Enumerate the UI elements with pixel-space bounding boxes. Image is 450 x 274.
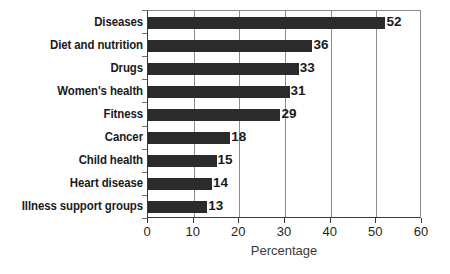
category-label: Child health — [13, 154, 143, 166]
category-label: Illness support groups — [13, 200, 143, 212]
bar — [148, 155, 217, 167]
category-label: Cancer — [13, 131, 143, 143]
x-axis-tick-label-0: 0 — [127, 224, 167, 239]
bar-value-label: 33 — [300, 62, 315, 74]
x-axis-tick-60 — [421, 218, 422, 223]
category-label: Heart disease — [13, 177, 143, 189]
bar-value-label: 29 — [281, 108, 296, 120]
x-axis-tick-label-20: 20 — [218, 224, 258, 239]
category-label-row: Heart disease — [0, 177, 143, 189]
bar-value-label: 52 — [386, 16, 401, 28]
bar — [148, 86, 290, 98]
category-label-row: Cancer — [0, 131, 143, 143]
bar-chart: DiseasesDiet and nutritionDrugsWomen's h… — [0, 0, 450, 274]
bar-value-label: 31 — [291, 85, 306, 97]
category-label: Fitness — [13, 108, 143, 120]
bar — [148, 17, 385, 29]
bar-value-label: 15 — [218, 154, 233, 166]
x-axis-title: Percentage — [147, 243, 421, 258]
x-axis-tick-40 — [330, 218, 331, 223]
y-axis-tick — [142, 56, 147, 57]
bar — [148, 178, 212, 190]
x-axis-tick-label-40: 40 — [310, 224, 350, 239]
category-label-row: Fitness — [0, 108, 143, 120]
category-label-row: Diseases — [0, 16, 143, 28]
gridline-40 — [331, 11, 332, 217]
x-axis-tick-label-30: 30 — [264, 224, 304, 239]
y-axis-tick — [142, 195, 147, 196]
category-label: Women's health — [13, 85, 143, 97]
x-axis-tick-label-60: 60 — [401, 224, 441, 239]
y-axis-tick — [142, 79, 147, 80]
y-axis-tick — [142, 102, 147, 103]
x-axis-tick-10 — [193, 218, 194, 223]
category-label-row: Women's health — [0, 85, 143, 97]
gridline-50 — [376, 11, 377, 217]
x-axis-tick-30 — [284, 218, 285, 223]
category-label: Drugs — [13, 62, 143, 74]
x-axis-tick-50 — [375, 218, 376, 223]
x-axis-tick-0 — [147, 218, 148, 223]
y-axis-tick — [142, 126, 147, 127]
category-label-row: Illness support groups — [0, 200, 143, 212]
bar-value-label: 36 — [313, 39, 328, 51]
bar-value-label: 18 — [231, 131, 246, 143]
bar-value-label: 14 — [213, 177, 228, 189]
category-label-row: Diet and nutrition — [0, 39, 143, 51]
y-axis-tick — [142, 172, 147, 173]
bar-value-label: 13 — [208, 200, 223, 212]
y-axis-tick — [142, 33, 147, 34]
y-axis-tick — [142, 149, 147, 150]
bar — [148, 63, 299, 75]
x-axis-tick-20 — [238, 218, 239, 223]
category-label-row: Drugs — [0, 62, 143, 74]
bar — [148, 40, 312, 52]
x-axis-tick-label-50: 50 — [355, 224, 395, 239]
bar — [148, 201, 207, 213]
y-axis-tick — [142, 10, 147, 11]
x-axis-tick-label-10: 10 — [173, 224, 213, 239]
bar — [148, 132, 230, 144]
category-label: Diseases — [13, 16, 143, 28]
bar — [148, 109, 280, 121]
category-label-row: Child health — [0, 154, 143, 166]
category-label: Diet and nutrition — [13, 39, 143, 51]
